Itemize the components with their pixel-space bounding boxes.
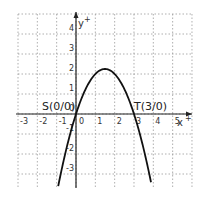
x-tick-label: 4 xyxy=(155,117,160,126)
x-tick-label: -3 xyxy=(20,117,28,126)
y-tick-label: 4 xyxy=(69,24,74,33)
parabola-plot: -3-2-10123454321-1-2-3 x + y + 0 S(0/0) … xyxy=(0,0,199,201)
y-tick-label: 3 xyxy=(69,44,74,53)
x-axis-label: x xyxy=(177,117,183,128)
y-tick-label: 2 xyxy=(69,64,74,73)
tick-labels: -3-2-10123454321-1-2-3 xyxy=(20,24,180,173)
y-axis-plus-sign: + xyxy=(84,15,91,24)
y-tick-label: 1 xyxy=(69,84,74,93)
x-tick-label: 0 xyxy=(79,117,84,126)
point-label-t: T(3/0) xyxy=(133,100,167,113)
x-axis-plus-sign: + xyxy=(185,114,192,123)
x-tick-label: -2 xyxy=(39,117,47,126)
point-label-s: S(0/0) xyxy=(42,100,75,113)
x-tick-label: 1 xyxy=(97,117,102,126)
x-tick-label: 2 xyxy=(117,117,122,126)
y-tick-label: -3 xyxy=(66,164,74,173)
